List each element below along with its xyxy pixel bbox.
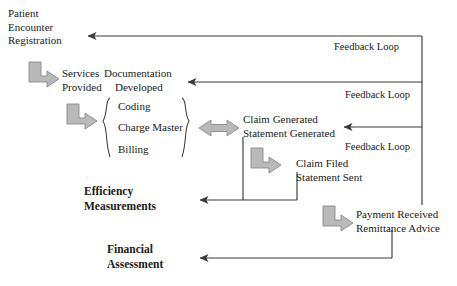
node-patient-encounter-registration: Patient Encounter Registration (8, 7, 62, 48)
node-efficiency-measurements: Efficiency Measurements (84, 184, 156, 214)
node-claim-generated: Claim Generated Statement Generated (243, 113, 335, 140)
node-payment-received: Payment Received Remittance Advice (356, 208, 440, 235)
efficiency-measurements-connector (200, 137, 297, 200)
left-curly-brace (103, 98, 110, 157)
flowchart-canvas: Patient Encounter Registration Services … (0, 0, 457, 286)
node-claim-filed: Claim Filed Statement Sent (296, 157, 362, 184)
block-arrow-coding-group (67, 104, 97, 129)
node-charge-master: Charge Master (118, 121, 183, 135)
node-billing: Billing (118, 143, 149, 157)
label-feedback-loop-1: Feedback Loop (334, 40, 399, 54)
block-arrow-payment-received (323, 206, 353, 231)
label-feedback-loop-2: Feedback Loop (345, 88, 410, 102)
block-arrow-services-provided (29, 62, 59, 87)
block-arrow-claim-filed (251, 148, 281, 173)
bidirectional-block-arrow (199, 120, 239, 136)
right-curly-brace (182, 98, 189, 157)
node-documentation-developed: Documentation Developed (104, 67, 172, 94)
node-coding: Coding (118, 100, 150, 114)
node-services-provided: Services Provided (62, 67, 102, 94)
label-feedback-loop-3: Feedback Loop (345, 140, 410, 154)
node-financial-assessment: Financial Assessment (107, 242, 163, 272)
